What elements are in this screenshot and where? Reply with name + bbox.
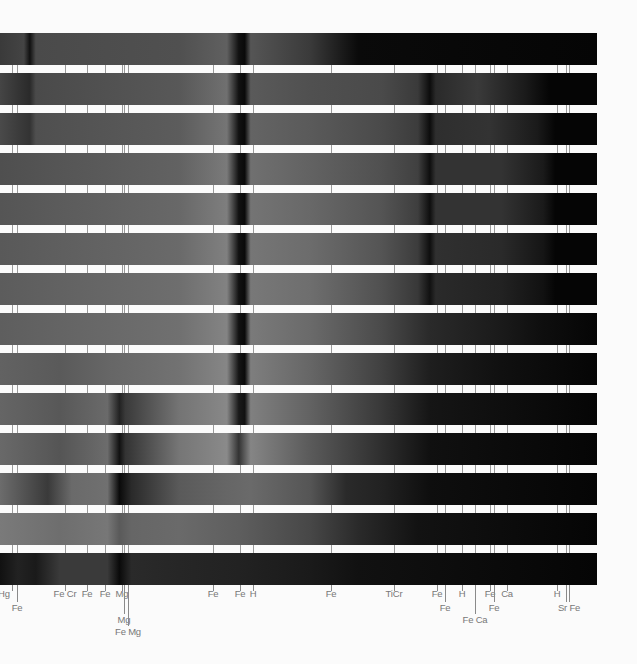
reference-tick	[394, 505, 395, 513]
reference-tick	[507, 145, 508, 153]
reference-tick	[17, 465, 18, 473]
reference-tick	[331, 145, 332, 153]
reference-tick	[569, 305, 570, 313]
reference-tick	[105, 265, 106, 273]
reference-tick	[12, 145, 13, 153]
reference-tick	[437, 65, 438, 73]
reference-tick	[494, 385, 495, 393]
reference-tick	[240, 345, 241, 353]
reference-tick	[569, 425, 570, 433]
reference-tick	[445, 105, 446, 113]
reference-tick	[12, 425, 13, 433]
line-label: TiCr	[386, 588, 403, 599]
reference-tick	[105, 545, 106, 553]
reference-tick	[128, 345, 129, 353]
reference-tick	[462, 505, 463, 513]
reference-tick	[253, 145, 254, 153]
reference-tick	[105, 465, 106, 473]
reference-tick	[105, 305, 106, 313]
reference-tick	[124, 545, 125, 553]
reference-tick	[557, 465, 558, 473]
line-label: Fe	[326, 588, 337, 599]
reference-tick	[65, 185, 66, 193]
reference-tick	[331, 465, 332, 473]
reference-tick	[122, 225, 123, 233]
reference-tick	[331, 345, 332, 353]
reference-tick	[128, 425, 129, 433]
reference-tick	[494, 105, 495, 113]
reference-tick	[462, 145, 463, 153]
reference-tick	[507, 505, 508, 513]
reference-tick	[105, 505, 106, 513]
reference-tick	[122, 425, 123, 433]
reference-tick	[494, 225, 495, 233]
line-marker	[569, 585, 570, 602]
reference-tick	[490, 425, 491, 433]
reference-tick	[462, 105, 463, 113]
reference-tick	[105, 65, 106, 73]
reference-tick	[569, 225, 570, 233]
reference-tick	[124, 385, 125, 393]
reference-tick	[213, 385, 214, 393]
reference-tick	[240, 225, 241, 233]
reference-tick	[128, 545, 129, 553]
reference-tick	[122, 185, 123, 193]
reference-tick	[17, 65, 18, 73]
line-marker	[475, 585, 476, 614]
reference-tick	[124, 105, 125, 113]
reference-tick	[445, 465, 446, 473]
reference-tick	[566, 305, 567, 313]
reference-tick	[557, 385, 558, 393]
spectrum-band	[0, 513, 597, 545]
reference-tick	[445, 65, 446, 73]
reference-tick	[122, 345, 123, 353]
reference-tick	[569, 145, 570, 153]
reference-tick	[462, 545, 463, 553]
reference-tick	[128, 225, 129, 233]
reference-tick	[124, 425, 125, 433]
reference-tick	[507, 65, 508, 73]
reference-tick	[566, 465, 567, 473]
reference-tick	[124, 345, 125, 353]
reference-tick	[128, 65, 129, 73]
reference-tick	[105, 105, 106, 113]
reference-tick	[128, 145, 129, 153]
spectrum-band	[0, 73, 597, 105]
reference-tick	[124, 65, 125, 73]
reference-tick	[124, 505, 125, 513]
reference-tick	[494, 545, 495, 553]
reference-tick	[437, 385, 438, 393]
reference-tick	[569, 345, 570, 353]
reference-tick	[122, 105, 123, 113]
reference-tick	[494, 185, 495, 193]
reference-tick	[240, 305, 241, 313]
reference-tick	[490, 185, 491, 193]
reference-tick	[445, 185, 446, 193]
reference-tick	[240, 105, 241, 113]
reference-tick	[213, 545, 214, 553]
spectrum-band	[0, 273, 597, 305]
reference-tick	[253, 385, 254, 393]
spectrum-band	[0, 553, 597, 585]
reference-tick	[557, 185, 558, 193]
reference-tick	[566, 345, 567, 353]
line-label: Fe	[12, 602, 23, 613]
reference-tick	[87, 265, 88, 273]
reference-tick	[213, 505, 214, 513]
reference-tick	[331, 545, 332, 553]
reference-tick	[87, 185, 88, 193]
reference-tick	[87, 225, 88, 233]
line-label: Fe Mg	[115, 626, 141, 637]
reference-tick	[105, 185, 106, 193]
reference-tick	[87, 305, 88, 313]
reference-tick	[240, 545, 241, 553]
reference-tick	[394, 305, 395, 313]
spectrum-band	[0, 353, 597, 385]
reference-tick	[475, 65, 476, 73]
reference-tick	[490, 105, 491, 113]
reference-tick	[12, 545, 13, 553]
reference-tick	[494, 265, 495, 273]
line-label: Hg	[0, 588, 10, 599]
reference-tick	[569, 385, 570, 393]
reference-tick	[122, 385, 123, 393]
